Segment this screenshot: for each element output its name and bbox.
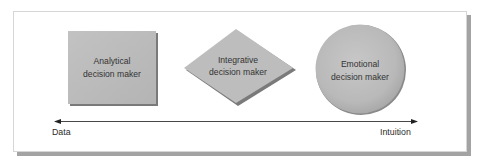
analytical-label-line2: decision maker: [83, 69, 141, 79]
left-arrowhead-icon: [54, 119, 61, 124]
right-arrowhead-icon: [411, 119, 418, 124]
axis-label-intuition: Intuition: [380, 128, 411, 137]
emotional-label-line1: Emotional: [341, 59, 379, 69]
analytical-decision-maker-square: Analytical decision maker: [68, 31, 158, 106]
decision-maker-diagram: Analytical decision maker Integrative de…: [0, 0, 483, 162]
emotional-decision-maker-circle: Emotional decision maker: [316, 25, 407, 116]
integrative-decision-maker-diamond: Integrative decision maker: [184, 29, 296, 106]
integrative-label-line1: Integrative: [218, 55, 258, 65]
integrative-label-line2: decision maker: [209, 67, 267, 77]
emotional-label-line2: decision maker: [331, 72, 389, 82]
axis-label-data: Data: [52, 128, 71, 137]
data-intuition-axis: [54, 119, 418, 124]
analytical-label-line1: Analytical: [94, 56, 131, 66]
